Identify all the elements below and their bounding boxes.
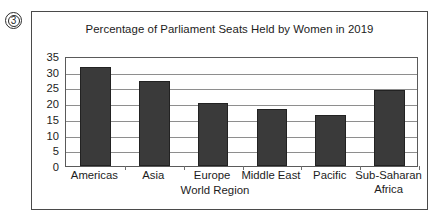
x-axis-category-label-line: Europe (194, 169, 230, 181)
bar (315, 115, 346, 166)
x-axis-category-label-line: Africa (355, 183, 422, 197)
x-axis-category-label: Sub-SaharanAfrica (355, 169, 422, 196)
x-axis-category-label: Middle East (241, 169, 300, 183)
question-number-marker: 3 (5, 12, 22, 29)
y-axis-tick-label: 25 (47, 82, 59, 94)
y-axis-tick-labels: 05101520253035 (32, 57, 62, 167)
x-axis-title: World Region (65, 184, 365, 196)
question-number-text: 3 (11, 16, 17, 26)
x-axis-category-label-line: Sub-Saharan (355, 169, 422, 181)
y-axis-tick-label: 35 (47, 51, 59, 63)
x-axis-category-label: Asia (142, 169, 164, 183)
x-axis-category-label-line: Middle East (241, 169, 300, 181)
bar (80, 67, 111, 166)
x-axis-category-label-line: Asia (142, 169, 164, 181)
x-axis-category-label: Americas (71, 169, 118, 183)
bar (257, 109, 288, 167)
bar (374, 90, 405, 166)
figure-frame: Percentage of Parliament Seats Held by W… (31, 11, 428, 210)
x-axis-category-label-line: Americas (71, 169, 118, 181)
chart-page: 3 Percentage of Parliament Seats Held by… (0, 0, 439, 223)
plot-area (65, 57, 418, 167)
chart-title: Percentage of Parliament Seats Held by W… (32, 23, 427, 35)
bar-series (66, 58, 417, 166)
y-axis-tick-label: 15 (47, 114, 59, 126)
x-axis-category-label: Pacific (313, 169, 346, 183)
y-axis-tick-label: 0 (53, 161, 59, 173)
y-axis-tick-label: 30 (47, 67, 59, 79)
y-axis-tick-label: 5 (53, 145, 59, 157)
y-axis-tick-label: 20 (47, 98, 59, 110)
bar (198, 103, 229, 166)
y-axis-tick-label: 10 (47, 130, 59, 142)
x-axis-category-label-line: Pacific (313, 169, 346, 181)
x-axis-category-label: Europe (194, 169, 230, 183)
bar (139, 81, 170, 166)
